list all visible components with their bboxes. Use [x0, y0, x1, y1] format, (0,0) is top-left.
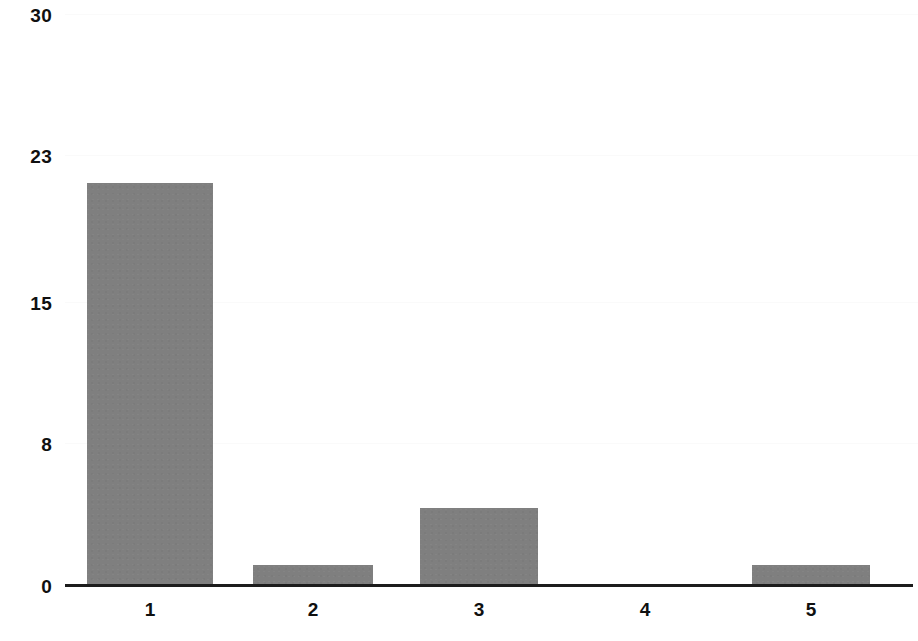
bar-5 — [752, 565, 870, 585]
bar-1 — [87, 183, 213, 585]
bar-3 — [420, 508, 538, 585]
y-tick-label-15: 15 — [4, 294, 52, 313]
y-tick-label-8: 8 — [4, 435, 52, 454]
x-tick-label-5: 5 — [781, 600, 841, 619]
x-tick-label-1: 1 — [120, 600, 180, 619]
y-tick-label-30: 30 — [4, 6, 52, 25]
x-tick-label-4: 4 — [615, 600, 675, 619]
plot-area: 30 23 15 8 0 1 2 3 4 5 — [0, 0, 918, 641]
gridline-30 — [65, 14, 918, 15]
x-axis-line — [65, 584, 913, 587]
bar-chart: 30 23 15 8 0 1 2 3 4 5 — [0, 0, 918, 641]
x-tick-label-3: 3 — [449, 600, 509, 619]
y-tick-label-23: 23 — [4, 147, 52, 166]
y-tick-label-0: 0 — [4, 577, 52, 596]
bar-2 — [253, 565, 373, 585]
x-tick-label-2: 2 — [283, 600, 343, 619]
gridline-23 — [65, 155, 918, 156]
